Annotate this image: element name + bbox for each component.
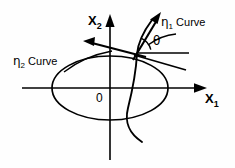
theta-angle-label: θ [153, 35, 160, 47]
origin-label: 0 [96, 92, 103, 104]
eta1-curve-word: Curve [173, 16, 205, 28]
x2-axis [105, 14, 114, 160]
eta2-tangent-vector [83, 37, 146, 57]
figure-canvas: X2 X1 η1 Curve η2 Curve 0 θ [0, 0, 235, 168]
eta1-curve [127, 20, 152, 142]
x2-axis-label: X2 [88, 14, 102, 31]
x2-axis-label-subscript: 2 [97, 21, 102, 31]
eta1-symbol: η [161, 15, 169, 29]
eta2-curve-word: Curve [25, 55, 57, 67]
x1-axis-label-subscript: 1 [214, 99, 219, 109]
x1-axis [22, 83, 207, 93]
tangent-line-right [134, 55, 186, 70]
x1-axis-label: X1 [205, 92, 219, 109]
eta2-curve-label: η2 Curve [13, 55, 57, 70]
eta2-leader-line [64, 51, 112, 72]
eta1-curve-label: η1 Curve [161, 16, 205, 31]
x1-axis-label-text: X [205, 91, 214, 106]
eta2-symbol: η [13, 54, 21, 68]
x2-axis-label-text: X [88, 13, 97, 28]
